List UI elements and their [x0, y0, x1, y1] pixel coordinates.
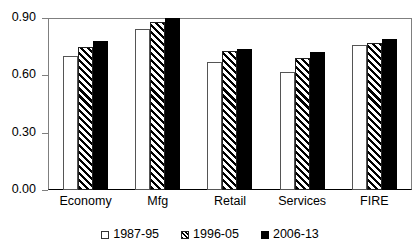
legend-swatch-hatched-square-icon — [181, 231, 189, 239]
bar-services-1996-05 — [295, 58, 310, 190]
bar-groups — [50, 18, 411, 190]
legend-label-1996-05: 1996-05 — [193, 228, 239, 241]
chart-legend: 1987-95 1996-05 2006-13 — [0, 228, 420, 241]
bar-services-1987-95 — [280, 72, 295, 190]
x-label-mfg: Mfg — [122, 194, 194, 212]
bar-mfg-1987-95 — [135, 29, 150, 190]
bar-group-economy — [50, 18, 122, 190]
x-label-services: Services — [266, 194, 338, 212]
y-tick-label-030: 0.30 — [12, 126, 36, 139]
y-tick-mark-000 — [42, 190, 48, 191]
x-axis-labels: Economy Mfg Retail Services FIRE — [50, 194, 411, 212]
legend-label-2006-13: 2006-13 — [273, 228, 319, 241]
bar-economy-1987-95 — [63, 56, 78, 190]
bar-economy-1996-05 — [78, 47, 93, 190]
bar-group-services — [266, 18, 338, 190]
y-tick-label-090: 0.90 — [12, 11, 36, 24]
legend-swatch-open-square-icon — [101, 231, 109, 239]
bar-mfg-1996-05 — [150, 22, 165, 190]
bar-retail-1987-95 — [207, 62, 222, 190]
bar-retail-1996-05 — [222, 51, 237, 191]
bar-fire-2006-13 — [382, 39, 397, 190]
bar-group-retail — [194, 18, 266, 190]
legend-label-1987-95: 1987-95 — [113, 228, 159, 241]
bar-fire-1987-95 — [352, 45, 367, 190]
y-tick-label-000: 0.00 — [12, 183, 36, 196]
x-label-fire: FIRE — [338, 194, 410, 212]
y-axis: 0.90 0.60 0.30 0.00 — [0, 0, 44, 252]
legend-swatch-filled-square-icon — [261, 231, 269, 239]
y-tick-label-060: 0.60 — [12, 68, 36, 81]
bar-mfg-2006-13 — [165, 18, 180, 190]
bar-group-fire — [338, 18, 410, 190]
x-label-economy: Economy — [50, 194, 122, 212]
bar-services-2006-13 — [310, 52, 325, 190]
x-label-retail: Retail — [194, 194, 266, 212]
legend-item-1987-95: 1987-95 — [101, 228, 159, 241]
bar-retail-2006-13 — [237, 49, 252, 190]
legend-item-1996-05: 1996-05 — [181, 228, 239, 241]
bar-group-mfg — [122, 18, 194, 190]
legend-item-2006-13: 2006-13 — [261, 228, 319, 241]
bar-chart: 0.90 0.60 0.30 0.00 — [0, 0, 420, 252]
bar-economy-2006-13 — [93, 41, 108, 190]
bar-fire-1996-05 — [367, 43, 382, 190]
